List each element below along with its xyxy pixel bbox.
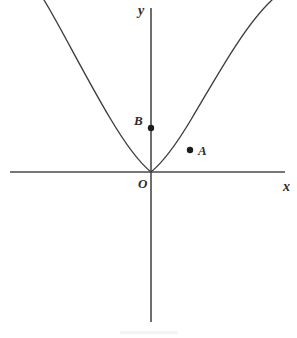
scan-artifact bbox=[120, 331, 178, 334]
y-axis-label: y bbox=[138, 4, 144, 18]
parabola-curve bbox=[44, 0, 272, 172]
point-a-dot bbox=[187, 147, 193, 153]
figure-canvas bbox=[0, 0, 297, 338]
parabola-figure: y x O B A bbox=[0, 0, 297, 338]
x-axis-label: x bbox=[283, 180, 290, 194]
origin-label: O bbox=[138, 177, 147, 190]
point-b-dot bbox=[148, 125, 154, 131]
point-b-label: B bbox=[134, 114, 143, 127]
point-a-label: A bbox=[198, 144, 207, 157]
